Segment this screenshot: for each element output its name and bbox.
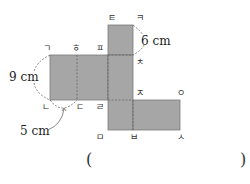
answer-paren-open: (: [86, 152, 92, 168]
vertex-label-siot: ㅅ: [177, 133, 185, 142]
vertex-label-jieut: ㅈ: [136, 89, 144, 98]
vertex-label-ieung: ㅇ: [177, 89, 185, 98]
left-face: [50, 55, 108, 100]
vertex-label-digeut: ㄷ: [76, 103, 84, 112]
center-column-face: [108, 55, 133, 130]
vertex-label-giyeok: ㄱ: [43, 44, 51, 53]
vertex-label-hieut: ㅎ: [72, 44, 80, 53]
vertex-label-tieut: ㅌ: [108, 14, 116, 23]
vertex-label-rieul: ㄹ: [96, 103, 104, 112]
vertex-label-pieup: ㅍ: [96, 44, 104, 53]
answer-paren-close: ): [240, 152, 246, 168]
vertex-label-kieuk: ㅋ: [136, 14, 144, 23]
vertex-label-mieum: ㅁ: [96, 133, 104, 142]
right-face: [133, 100, 180, 130]
measurement-left-height: 9 cm: [9, 71, 39, 83]
pointer-arrow: [48, 109, 64, 130]
vertex-label-nieun: ㄴ: [42, 103, 50, 112]
measurement-bottom-width: 5 cm: [20, 125, 50, 137]
vertex-label-chieut: ㅊ: [136, 58, 144, 67]
prism-net-diagram: [0, 0, 250, 184]
measurement-top-side: 6 cm: [141, 35, 171, 47]
vertex-label-bieup: ㅂ: [130, 133, 138, 142]
top-face: [108, 25, 133, 55]
